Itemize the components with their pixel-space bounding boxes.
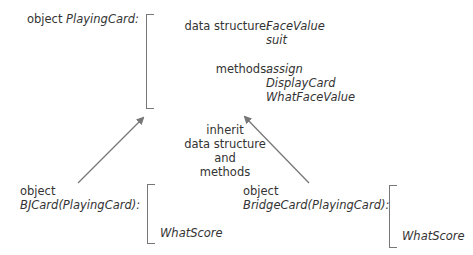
- bjcard-method: WhatScore: [160, 226, 223, 240]
- inherit-note-line: inherit: [170, 123, 280, 137]
- bjcard-name: BJCard(PlayingCard):: [20, 198, 140, 212]
- bridgecard-name: BridgeCard(PlayingCard):: [243, 198, 389, 212]
- bjcard-prefix: object: [20, 184, 55, 198]
- inherit-note-line: data structure: [170, 137, 280, 151]
- bridgecard-prefix: object: [243, 184, 278, 198]
- arrow-left-to-parent: [78, 118, 143, 183]
- bridgecard-bracket: [389, 185, 397, 248]
- bjcard-bracket: [147, 184, 155, 244]
- bridgecard-method: WhatScore: [402, 229, 465, 243]
- inherit-note-line: and: [170, 151, 280, 165]
- inherit-note-line: methods: [170, 165, 280, 179]
